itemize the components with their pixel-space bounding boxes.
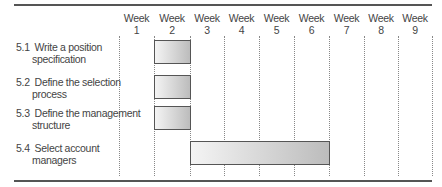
task-bar-5.4 — [190, 141, 330, 165]
task-label-5.2: 5.2 Define the selectionprocess — [16, 76, 121, 100]
week-label-6: Week6 — [295, 12, 329, 36]
grid-line — [432, 36, 433, 176]
week-label-3: Week3 — [190, 12, 224, 36]
top-rule — [14, 4, 432, 6]
week-label-8: Week8 — [364, 12, 398, 36]
task-bar-5.3 — [154, 106, 191, 130]
grid-line — [364, 36, 365, 176]
week-label-7: Week7 — [330, 12, 364, 36]
week-label-1: Week1 — [120, 12, 154, 36]
bottom-rule — [14, 180, 432, 182]
task-label-5.4: 5.4 Select accountmanagers — [16, 142, 99, 166]
week-label-4: Week4 — [225, 12, 259, 36]
task-bar-5.1 — [154, 40, 191, 64]
week-label-9: Week9 — [398, 12, 432, 36]
grid-line — [119, 36, 120, 176]
task-label-5.3: 5.3 Define the managementstructure — [16, 107, 140, 131]
week-label-5: Week5 — [260, 12, 294, 36]
task-bar-5.2 — [154, 75, 191, 99]
grid-line — [398, 36, 399, 176]
week-label-2: Week2 — [155, 12, 189, 36]
task-label-5.1: 5.1 Write a positionspecification — [16, 41, 102, 65]
